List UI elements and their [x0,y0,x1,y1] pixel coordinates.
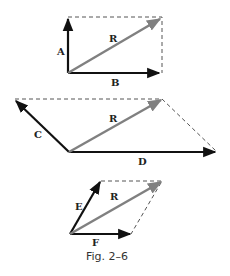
label-f: F [92,237,99,248]
diagram-small-parallelogram: E F R [70,181,162,248]
resultant-r-arrow [70,182,161,234]
vector-addition-figure: A B R C D R E F R Fig. 2–6 [0,0,230,276]
label-r: R [110,191,119,202]
label-r: R [109,33,118,44]
figure-caption: Fig. 2–6 [86,250,128,263]
diagram-wide-parallelogram: C D R [15,99,216,167]
resultant-r-arrow [69,100,161,152]
resultant-r-arrow [68,19,160,73]
label-c: C [34,129,42,140]
label-d: D [138,156,147,167]
label-b: B [111,77,119,88]
label-e: E [75,201,83,212]
label-r: R [109,113,118,124]
label-a: A [56,46,65,57]
vector-c-arrow [16,101,69,152]
diagram-rectangle: A B R [56,17,162,88]
dashed-completion [101,181,162,234]
